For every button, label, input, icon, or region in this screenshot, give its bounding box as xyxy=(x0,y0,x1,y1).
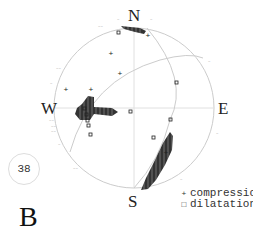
svg-text:~~: ~~ xyxy=(56,67,61,71)
event-id: 38 xyxy=(17,163,30,175)
svg-text:~: ~ xyxy=(150,18,153,22)
svg-text:+: + xyxy=(118,69,123,78)
svg-text:~~: ~~ xyxy=(73,167,78,171)
east-label: E xyxy=(218,100,228,117)
legend-item-dilatation: □ dilatation xyxy=(181,199,253,210)
focal-mechanism-figure: + + + + + + ~~ ~ ~ ~ ~ ~ ~~ xyxy=(0,0,253,235)
north-label: N xyxy=(128,7,140,24)
svg-text:~: ~ xyxy=(180,178,183,182)
west-label: W xyxy=(41,100,57,117)
legend: + compression □ dilatation xyxy=(181,188,253,210)
svg-text:+: + xyxy=(164,148,169,157)
event-id-badge: 38 xyxy=(8,153,40,185)
svg-text:~~: ~~ xyxy=(51,130,56,134)
svg-text:~: ~ xyxy=(117,18,120,22)
compression-symbol-icon: + xyxy=(181,188,187,199)
panel-label: B xyxy=(19,203,38,231)
dilatation-symbol-icon: □ xyxy=(181,199,187,210)
svg-text:+: + xyxy=(64,85,69,94)
svg-text:~: ~ xyxy=(216,132,219,136)
south-label: S xyxy=(128,193,137,210)
svg-text:~~: ~~ xyxy=(51,125,56,129)
svg-text:+: + xyxy=(109,49,114,58)
legend-label: dilatation xyxy=(190,199,253,210)
svg-text:~: ~ xyxy=(58,143,61,147)
svg-text:~~: ~~ xyxy=(98,25,103,29)
svg-text:~~: ~~ xyxy=(49,119,54,123)
svg-text:~: ~ xyxy=(208,60,211,64)
svg-text:+: + xyxy=(89,85,94,94)
dilatation-markers xyxy=(83,31,178,139)
svg-text:~: ~ xyxy=(50,82,53,86)
svg-text:+: + xyxy=(146,31,151,40)
